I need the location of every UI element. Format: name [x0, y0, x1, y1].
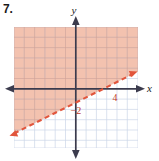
- coordinate-plane-graph: y x 4 −2: [0, 0, 159, 161]
- graph-svg: y x 4 −2: [0, 0, 159, 161]
- tick-label-x-4: 4: [113, 92, 118, 103]
- y-axis-top-arrow: [72, 16, 80, 25]
- tick-label-y-negative-2: −2: [71, 105, 82, 116]
- exercise-figure: 7.: [0, 0, 159, 161]
- x-axis-right-arrow: [136, 85, 145, 93]
- y-axis-bottom-arrow: [72, 150, 80, 159]
- x-axis-label: x: [146, 82, 152, 94]
- y-axis-label: y: [71, 4, 77, 16]
- x-axis-left-arrow: [5, 85, 14, 93]
